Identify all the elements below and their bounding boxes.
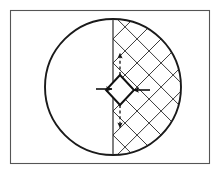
figure-svg: [0, 0, 223, 177]
figure-container: [0, 0, 223, 177]
